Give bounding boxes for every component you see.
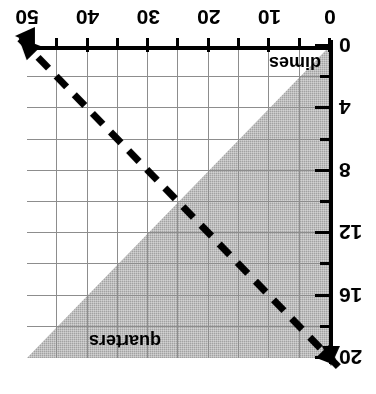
boundary-line-overlay <box>0 0 376 394</box>
dashed-boundary-line <box>19 37 339 366</box>
graph-figure: 01020304050 048121620 dimes quarters <box>0 0 376 394</box>
